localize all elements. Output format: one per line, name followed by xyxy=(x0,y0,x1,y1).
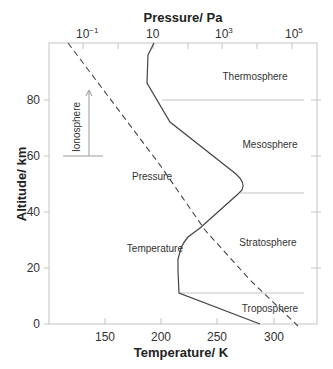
right-ticks xyxy=(311,100,321,268)
temperature-curve xyxy=(147,43,260,324)
left-ticks xyxy=(44,100,49,324)
plot-frame xyxy=(49,43,317,324)
x2-tick-1e1: 10 xyxy=(146,27,160,41)
x-tick-250: 250 xyxy=(207,330,227,344)
pressure-curve-label: Pressure xyxy=(132,171,172,182)
y-axis-title: Altitude/ km xyxy=(14,147,29,221)
x-tick-150: 150 xyxy=(95,330,115,344)
top-ticks xyxy=(83,43,292,49)
atmosphere-chart: Ionosphere Thermosphere Mesosphere Strat… xyxy=(0,0,333,369)
x2-tick-1e3: 103 xyxy=(215,26,233,41)
bottom-ticks xyxy=(105,318,274,324)
x2-axis-title: Pressure/ Pa xyxy=(144,10,224,25)
x-tick-300: 300 xyxy=(264,330,284,344)
pressure-curve xyxy=(68,43,298,326)
x2-tick-1e-1: 10−1 xyxy=(76,26,99,41)
ionosphere-label: Ionosphere xyxy=(71,102,82,152)
temperature-curve-label: Temperature xyxy=(127,243,184,254)
x2-tick-1e5: 105 xyxy=(285,26,303,41)
troposphere-label: Troposphere xyxy=(242,303,299,314)
x-axis-title: Temperature/ K xyxy=(134,345,229,360)
x-tick-200: 200 xyxy=(151,330,171,344)
thermosphere-label: Thermosphere xyxy=(222,71,287,82)
region-boundaries xyxy=(162,100,304,293)
y-tick-80: 80 xyxy=(27,93,41,107)
y-tick-0: 0 xyxy=(33,317,40,331)
mesosphere-label: Mesosphere xyxy=(242,139,297,150)
stratosphere-label: Stratosphere xyxy=(239,237,297,248)
y-tick-20: 20 xyxy=(27,261,41,275)
ionosphere-arrow xyxy=(63,90,103,156)
